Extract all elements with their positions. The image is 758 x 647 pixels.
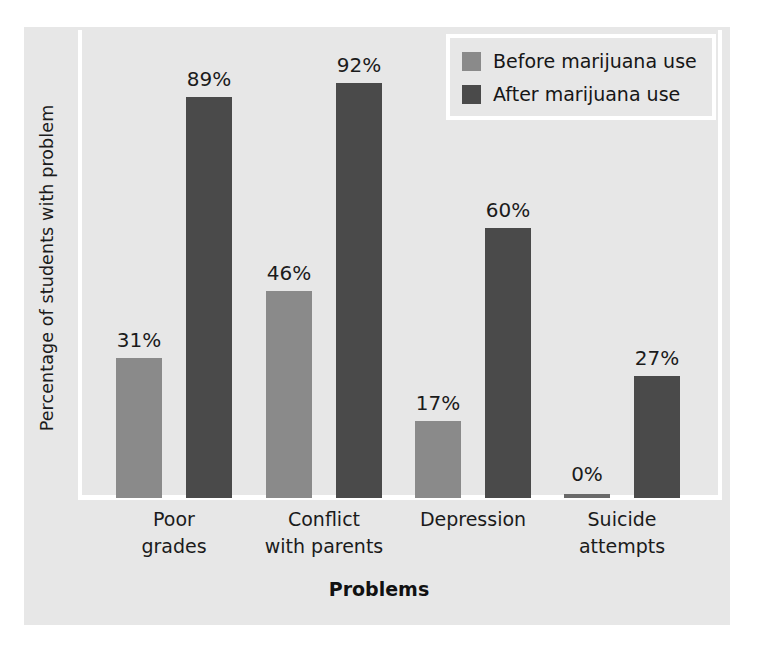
legend-item-after: After marijuana use: [462, 78, 702, 111]
bar-label-depression-before: 17%: [403, 391, 473, 415]
x-tick-suicide-attempts-line2: attempts: [552, 533, 692, 560]
bar-label-poor-grades-after: 89%: [174, 67, 244, 91]
bar-label-poor-grades-before: 31%: [104, 328, 174, 352]
bar-depression-before: [415, 421, 461, 498]
legend: Before marijuana use After marijuana use: [446, 34, 716, 120]
legend-swatch-before-icon: [462, 52, 481, 71]
x-axis-tick-labels: Poor grades Conflict with parents Depres…: [82, 506, 718, 568]
bar-label-conflict-with-parents-before: 46%: [254, 261, 324, 285]
bar-label-suicide-attempts-before: 0%: [552, 462, 622, 486]
y-axis-title: Percentage of students with problem: [37, 58, 57, 478]
bar-label-conflict-with-parents-after: 92%: [324, 53, 394, 77]
bar-poor-grades-before: [116, 358, 162, 498]
x-tick-suicide-attempts-line1: Suicide: [552, 506, 692, 533]
x-tick-poor-grades-line2: grades: [104, 533, 244, 560]
x-tick-conflict-with-parents-line1: Conflict: [254, 506, 394, 533]
legend-item-before: Before marijuana use: [462, 45, 702, 78]
bar-conflict-with-parents-after: [336, 83, 382, 498]
bar-label-depression-after: 60%: [473, 198, 543, 222]
legend-swatch-after-icon: [462, 85, 481, 104]
bar-poor-grades-after: [186, 97, 232, 498]
bar-depression-after: [485, 228, 531, 498]
x-tick-poor-grades-line1: Poor: [104, 506, 244, 533]
x-tick-suicide-attempts: Suicide attempts: [552, 506, 692, 560]
x-tick-poor-grades: Poor grades: [104, 506, 244, 560]
bar-label-suicide-attempts-after: 27%: [622, 346, 692, 370]
legend-label-before: Before marijuana use: [493, 52, 697, 71]
figure: Percentage of students with problem 31% …: [0, 0, 758, 647]
x-tick-depression-line1: Depression: [403, 506, 543, 533]
bar-suicide-attempts-before: [564, 494, 610, 498]
x-tick-depression: Depression: [403, 506, 543, 533]
x-tick-conflict-with-parents-line2: with parents: [254, 533, 394, 560]
legend-label-after: After marijuana use: [493, 85, 680, 104]
x-axis-title: Problems: [0, 578, 758, 600]
bar-suicide-attempts-after: [634, 376, 680, 498]
bar-conflict-with-parents-before: [266, 291, 312, 498]
x-tick-conflict-with-parents: Conflict with parents: [254, 506, 394, 560]
